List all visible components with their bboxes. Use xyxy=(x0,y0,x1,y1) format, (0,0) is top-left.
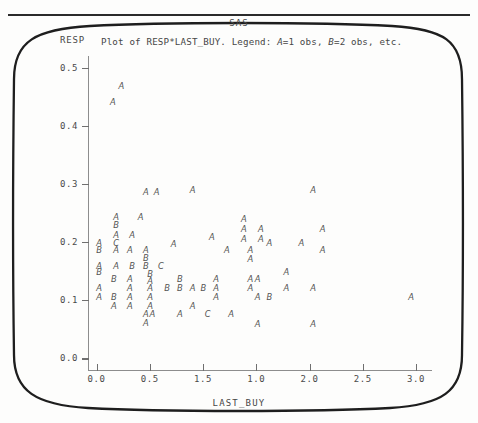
y-tick-mark xyxy=(82,300,89,301)
plot-area: SAS Plot of RESP*LAST_BUY. Legend: A=1 o… xyxy=(0,0,478,423)
scatter-point-a: A xyxy=(171,240,177,248)
scatter-point-c: C xyxy=(158,262,164,270)
scatter-point-a: A xyxy=(247,255,253,263)
y-tick-mark xyxy=(82,358,89,359)
scatter-point-a: A xyxy=(209,233,215,241)
scatter-point-a: A xyxy=(119,82,125,90)
scatter-point-a: A xyxy=(213,293,219,301)
x-axis-line xyxy=(88,370,432,371)
y-tick-label: 0.5 xyxy=(46,63,78,73)
y-axis-title: RESP xyxy=(60,35,85,45)
scatter-point-a: A xyxy=(310,284,316,292)
y-tick-label: 0.3 xyxy=(46,179,78,189)
scatter-point-a: A xyxy=(299,239,305,247)
scanned-page: SAS Plot of RESP*LAST_BUY. Legend: A=1 o… xyxy=(0,0,478,423)
scatter-point-a: A xyxy=(190,284,196,292)
scatter-point-a: A xyxy=(255,275,261,283)
plot-subtitle: Plot of RESP*LAST_BUY. Legend: A=1 obs, … xyxy=(101,36,402,47)
scatter-point-a: A xyxy=(224,246,230,254)
scatter-point-a: A xyxy=(190,186,196,194)
scatter-point-b: B xyxy=(111,293,117,301)
y-tick-mark xyxy=(82,68,89,69)
scatter-point-a: A xyxy=(110,98,116,106)
scatter-point-a: A xyxy=(284,268,290,276)
x-tick-label: 0.0 xyxy=(77,374,117,384)
x-tick-label: 2.0 xyxy=(290,374,330,384)
scatter-point-a: A xyxy=(113,262,119,270)
scatter-point-a: A xyxy=(177,310,183,318)
scatter-point-b: B xyxy=(129,262,135,270)
x-tick-label: 1.0 xyxy=(236,374,276,384)
y-tick-mark xyxy=(82,184,89,185)
scatter-point-a: A xyxy=(408,293,414,301)
x-tick-mark xyxy=(310,364,311,371)
scatter-point-b: B xyxy=(111,275,117,283)
scatter-point-a: A xyxy=(143,188,149,196)
scatter-point-a: A xyxy=(127,246,133,254)
scatter-point-a: A xyxy=(320,246,326,254)
scatter-point-a: A xyxy=(138,213,144,221)
scatter-point-b: B xyxy=(96,246,102,254)
y-tick-mark xyxy=(82,242,89,243)
x-tick-mark xyxy=(150,364,151,371)
scatter-point-a: A xyxy=(255,293,261,301)
y-axis-line xyxy=(88,56,89,371)
y-tick-label: 0.0 xyxy=(46,353,78,363)
x-tick-label: 3.0 xyxy=(396,374,436,384)
scatter-point-a: A xyxy=(267,239,273,247)
scatter-point-a: A xyxy=(111,302,117,310)
scatter-point-b: B xyxy=(177,284,183,292)
x-tick-mark xyxy=(203,364,204,371)
scatter-point-a: A xyxy=(154,188,160,196)
x-axis-title: LAST_BUY xyxy=(0,398,478,408)
x-tick-mark xyxy=(256,364,257,371)
scatter-point-a: A xyxy=(310,186,316,194)
scatter-point-a: A xyxy=(241,225,247,233)
scatter-point-a: A xyxy=(129,231,135,239)
scatter-point-a: A xyxy=(241,215,247,223)
scatter-point-a: A xyxy=(113,246,119,254)
subtitle-prefix: Plot of RESP*LAST_BUY. Legend: xyxy=(101,36,277,47)
scatter-point-a: A xyxy=(127,293,133,301)
scatter-point-a: A xyxy=(310,320,316,328)
x-tick-label: 2.5 xyxy=(343,374,383,384)
scatter-point-a: A xyxy=(255,320,261,328)
scatter-point-c: C xyxy=(205,310,211,318)
scatter-point-a: A xyxy=(258,225,264,233)
y-tick-label: 0.4 xyxy=(46,121,78,131)
scatter-point-a: A xyxy=(96,293,102,301)
scatter-point-b: B xyxy=(267,293,273,301)
scatter-point-a: A xyxy=(190,302,196,310)
scatter-point-b: B xyxy=(113,221,119,229)
scatter-point-b: B xyxy=(201,284,207,292)
x-tick-label: 1.5 xyxy=(183,374,223,384)
y-tick-mark xyxy=(82,126,89,127)
scatter-point-a: A xyxy=(228,310,234,318)
scatter-point-a: A xyxy=(241,235,247,243)
scatter-point-a: A xyxy=(143,319,149,327)
scatter-point-b: B xyxy=(96,268,102,276)
scatter-point-a: A xyxy=(320,225,326,233)
x-tick-mark xyxy=(363,364,364,371)
y-tick-label: 0.1 xyxy=(46,295,78,305)
legend-b-text: =2 obs, etc. xyxy=(334,36,402,47)
scatter-point-b: B xyxy=(164,284,170,292)
sas-system-title: SAS xyxy=(0,18,478,28)
x-tick-mark xyxy=(97,364,98,371)
scatter-point-a: A xyxy=(147,293,153,301)
scatter-point-a: A xyxy=(247,284,253,292)
x-tick-label: 0.5 xyxy=(130,374,170,384)
scatter-point-a: A xyxy=(127,302,133,310)
scatter-point-a: A xyxy=(149,310,155,318)
x-tick-mark xyxy=(416,364,417,371)
scatter-point-a: A xyxy=(258,235,264,243)
legend-a-text: =1 obs, xyxy=(283,36,328,47)
y-tick-label: 0.2 xyxy=(46,237,78,247)
scatter-point-a: A xyxy=(284,284,290,292)
